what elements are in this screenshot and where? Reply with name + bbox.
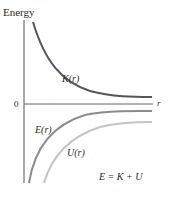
equation-label: E = K + U	[98, 171, 143, 182]
origin-label: 0	[14, 99, 19, 109]
kinetic-energy-label: K(r)	[61, 73, 80, 85]
potential-energy-label: U(r)	[67, 147, 85, 159]
total-energy-label: E(r)	[34, 124, 52, 136]
kinetic-energy-curve	[33, 22, 152, 97]
x-axis-label: r	[157, 98, 161, 108]
energy-diagram: Energy 0 r K(r) E(r) U(r) E = K + U	[0, 0, 173, 197]
y-axis-label: Energy	[3, 6, 35, 18]
